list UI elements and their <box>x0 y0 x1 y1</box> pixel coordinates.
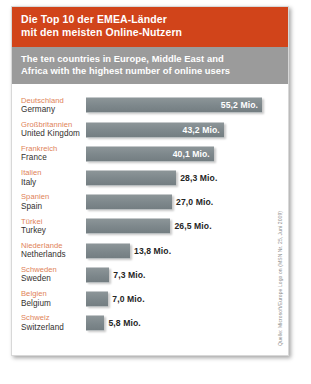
country-name-english: Turkey <box>21 226 86 235</box>
chart-row: SchwedenSweden7,3 Mio. <box>12 263 288 287</box>
bar <box>86 316 104 331</box>
country-name-german: Frankreich <box>21 145 86 154</box>
chart-row: BelgienBelgium7,0 Mio. <box>12 287 288 311</box>
bar <box>86 243 130 258</box>
chart-row: SchweizSwitzerland5,8 Mio. <box>12 311 288 335</box>
chart-poster: Die Top 10 der EMEA-Länder mit den meist… <box>11 6 289 356</box>
bar <box>86 291 108 306</box>
bar-track: 7,0 Mio. <box>86 287 288 311</box>
country-name-english: Spain <box>21 202 86 211</box>
bar-value-label: 7,3 Mio. <box>113 270 145 280</box>
country-name-english: Italy <box>21 178 86 187</box>
bar-value-label: 5,8 Mio. <box>108 318 140 328</box>
bar-track: 27,0 Mio. <box>86 190 288 214</box>
bar-value-label: 27,0 Mio. <box>176 197 213 207</box>
title-band-english: The ten countries in Europe, Middle East… <box>12 47 288 84</box>
bar-value-label: 28,3 Mio. <box>180 173 217 183</box>
bar-track: 28,3 Mio. <box>86 166 288 190</box>
title-band-german: Die Top 10 der EMEA-Länder mit den meist… <box>12 7 288 47</box>
bar <box>86 219 170 234</box>
chart-row: TürkeiTurkey26,5 Mio. <box>12 214 288 238</box>
bar-track: 7,3 Mio. <box>86 263 288 287</box>
chart-row: DeutschlandGermany55,2 Mio. <box>12 93 288 117</box>
country-name-english: Sweden <box>21 274 86 283</box>
country-name-german: Großbritannien <box>21 121 86 130</box>
country-label: TürkeiTurkey <box>12 218 86 236</box>
chart-row: NiederlandeNetherlands13,8 Mio. <box>12 238 288 262</box>
title-english-line-1: The ten countries in Europe, Middle East… <box>21 53 279 65</box>
source-note: Quelle: Microsoft/Europe Logo on (MSN Nr… <box>276 163 286 343</box>
bar-value-label: 55,2 Mio. <box>221 100 258 110</box>
country-name-german: Türkei <box>21 218 86 227</box>
bar-value-label: 26,5 Mio. <box>174 221 211 231</box>
bar-track: 13,8 Mio. <box>86 238 288 262</box>
bar-track: 5,8 Mio. <box>86 311 288 335</box>
country-label: GroßbritannienUnited Kingdom <box>12 121 86 139</box>
chart-row: FrankreichFrance40,1 Mio. <box>12 142 288 166</box>
country-label: BelgienBelgium <box>12 290 86 308</box>
country-name-german: Italien <box>21 169 86 178</box>
country-label: SpanienSpain <box>12 193 86 211</box>
country-name-german: Niederlande <box>21 242 86 251</box>
country-name-english: Germany <box>21 105 86 114</box>
title-german-line-1: Die Top 10 der EMEA-Länder <box>21 13 279 26</box>
chart-row: SpanienSpain27,0 Mio. <box>12 190 288 214</box>
title-english-line-2: Africa with the highest number of online… <box>21 65 279 77</box>
source-text: Quelle: Microsoft/Europe Logo on (MSN Nr… <box>277 166 283 346</box>
country-name-english: Belgium <box>21 299 86 308</box>
bar <box>86 170 176 185</box>
title-german-line-2: mit den meisten Online-Nutzern <box>21 26 279 39</box>
bar-value-label: 43,2 Mio. <box>183 125 220 135</box>
bar-value-label: 7,0 Mio. <box>112 294 144 304</box>
country-label: SchwedenSweden <box>12 266 86 284</box>
country-name-german: Deutschland <box>21 97 86 106</box>
bar-track: 43,2 Mio. <box>86 118 288 142</box>
country-name-english: United Kingdom <box>21 129 86 138</box>
bar-track: 26,5 Mio. <box>86 214 288 238</box>
country-label: FrankreichFrance <box>12 145 86 163</box>
country-name-german: Schweden <box>21 266 86 275</box>
country-label: NiederlandeNetherlands <box>12 242 86 260</box>
bar-track: 55,2 Mio. <box>86 93 288 117</box>
country-name-english: Switzerland <box>21 323 86 332</box>
chart-row: GroßbritannienUnited Kingdom43,2 Mio. <box>12 118 288 142</box>
country-name-german: Spanien <box>21 193 86 202</box>
chart-row: ItalienItaly28,3 Mio. <box>12 166 288 190</box>
country-label: SchweizSwitzerland <box>12 314 86 332</box>
country-name-german: Belgien <box>21 290 86 299</box>
bar-chart: DeutschlandGermany55,2 Mio.Großbritannie… <box>12 84 288 330</box>
bar <box>86 267 109 282</box>
bar-track: 40,1 Mio. <box>86 142 288 166</box>
country-name-english: France <box>21 153 86 162</box>
country-name-english: Netherlands <box>21 250 86 259</box>
bar-value-label: 13,8 Mio. <box>134 246 171 256</box>
country-label: ItalienItaly <box>12 169 86 187</box>
bar <box>86 195 172 210</box>
bar-value-label: 40,1 Mio. <box>173 149 210 159</box>
country-name-german: Schweiz <box>21 314 86 323</box>
country-label: DeutschlandGermany <box>12 97 86 115</box>
